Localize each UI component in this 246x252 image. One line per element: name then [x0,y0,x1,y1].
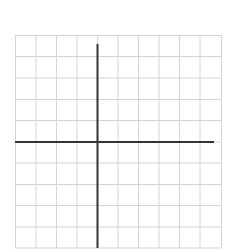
coordinate-grid [0,0,246,252]
